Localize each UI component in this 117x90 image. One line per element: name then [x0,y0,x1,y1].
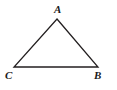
triangle-outline [14,19,98,67]
vertex-label-a: A [54,4,61,15]
vertex-label-b: B [94,70,101,81]
triangle-figure: A C B [0,0,117,90]
vertex-label-c: C [5,70,12,81]
